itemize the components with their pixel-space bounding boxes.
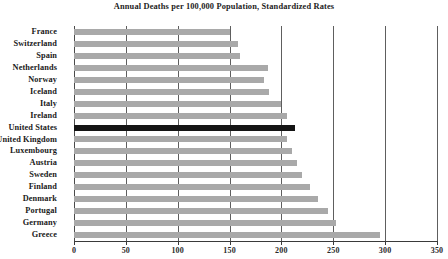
chart-row: Switzerland [74,38,437,50]
chart-row: Luxembourg [74,145,437,157]
x-tick-200 [281,241,282,245]
bar-finland [74,184,310,190]
bar-greece [74,232,380,238]
chart-row: France [74,26,437,38]
chart-row: Netherlands [74,62,437,74]
x-tick-label-200: 200 [275,246,288,255]
category-label-portugal: Portugal [0,205,57,217]
x-tick-label-250: 250 [327,246,340,255]
bar-italy [74,101,281,107]
bar-ireland [74,113,287,119]
bar-luxembourg [74,148,292,154]
chart-row: Spain [74,50,437,62]
bar-switzerland [74,41,238,47]
x-tick-250 [333,241,334,245]
bar-netherlands [74,65,268,71]
x-tick-label-150: 150 [223,246,236,255]
chart-row: Portugal [74,205,437,217]
x-tick-100 [178,241,179,245]
x-tick-50 [126,241,127,245]
chart-title: Annual Deaths per 100,000 Population, St… [0,2,448,11]
category-label-united-kingdom: United Kingdom [0,134,57,146]
chart-row: Austria [74,157,437,169]
category-label-sweden: Sweden [0,169,57,181]
chart-row: Germany [74,217,437,229]
category-label-germany: Germany [0,217,57,229]
category-label-norway: Norway [0,74,57,86]
x-tick-label-350: 350 [431,246,444,255]
bar-sweden [74,172,302,178]
category-label-switzerland: Switzerland [0,38,57,50]
x-tick-350 [437,241,438,245]
category-label-spain: Spain [0,50,57,62]
bar-austria [74,160,297,166]
category-label-netherlands: Netherlands [0,62,57,74]
chart-row: United Kingdom [74,134,437,146]
category-label-austria: Austria [0,157,57,169]
category-label-italy: Italy [0,98,57,110]
bar-denmark [74,196,318,202]
x-tick-label-0: 0 [72,246,76,255]
category-label-france: France [0,26,57,38]
bar-france [74,29,230,35]
chart-row: Italy [74,98,437,110]
chart-row: Norway [74,74,437,86]
chart-row: Sweden [74,169,437,181]
bar-portugal [74,208,328,214]
chart-row: Finland [74,181,437,193]
x-tick-300 [385,241,386,245]
category-label-iceland: Iceland [0,86,57,98]
bar-germany [74,220,336,226]
x-axis-line [74,241,438,242]
x-tick-150 [230,241,231,245]
bar-spain [74,53,240,59]
category-label-luxembourg: Luxembourg [0,145,57,157]
bar-united-states [74,125,295,131]
x-tick-0 [74,241,75,245]
bar-norway [74,77,264,83]
chart-row: Iceland [74,86,437,98]
category-label-greece: Greece [0,229,57,241]
x-tick-label-300: 300 [379,246,392,255]
chart-row: Denmark [74,193,437,205]
x-tick-label-100: 100 [171,246,184,255]
category-label-finland: Finland [0,181,57,193]
x-tick-label-50: 50 [122,246,130,255]
bar-united-kingdom [74,136,287,142]
bar-chart: Annual Deaths per 100,000 Population, St… [0,0,448,259]
chart-row: Ireland [74,110,437,122]
category-label-ireland: Ireland [0,110,57,122]
chart-row: United States [74,122,437,134]
chart-row: Greece [74,229,437,241]
plot-area: FranceSwitzerlandSpainNetherlandsNorwayI… [74,26,437,241]
gridline-350 [437,26,438,241]
category-label-denmark: Denmark [0,193,57,205]
bar-iceland [74,89,269,95]
category-label-united-states: United States [0,122,57,134]
